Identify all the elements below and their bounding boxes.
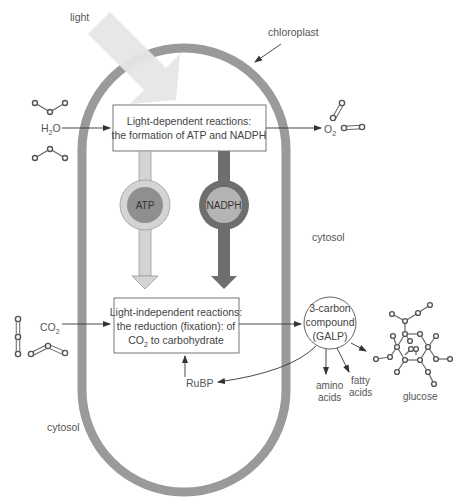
light-independent-description: the reduction (fixation): of: [117, 320, 236, 332]
amino-acids-label: amino: [316, 380, 344, 391]
atp-carrier: ATP: [120, 151, 170, 289]
light-independent-reactions-box: Light-independent reactions: the reducti…: [110, 298, 243, 353]
cytosol-label-left: cytosol: [47, 421, 80, 433]
oxygen-molecule-icon: [330, 100, 344, 120]
co2-molecule-icon: [28, 343, 67, 356]
galp-line2: compound: [305, 316, 354, 328]
galp-line1: 3-carbon: [309, 302, 351, 314]
galp-line3: (GALP): [312, 330, 347, 342]
light-label: light: [70, 11, 89, 23]
oxygen-molecule-icon: [341, 124, 364, 130]
light-independent-title: Light-independent reactions:: [110, 306, 243, 318]
co2-label: CO2: [40, 321, 60, 335]
rubp-label: RuBP: [186, 377, 213, 389]
light-dependent-reactions-box: Light-dependent reactions: the formation…: [112, 105, 267, 151]
to-glucose-arrow: [351, 343, 366, 351]
nadph-label: NADPH: [206, 200, 241, 211]
nadph-carrier: NADPH: [199, 151, 249, 289]
fatty-acids-label-2: acids: [349, 387, 372, 398]
chloroplast-pointer-arrow: [255, 44, 281, 62]
photosynthesis-diagram: light chloroplast H2O Light-dependent re…: [0, 0, 464, 500]
atp-label: ATP: [136, 200, 155, 211]
water-molecule-icon: [33, 101, 68, 115]
water-molecule-icon: [33, 147, 68, 161]
galp-node: 3-carbon compound (GALP): [304, 297, 356, 349]
to-fatty-acids-arrow: [337, 348, 349, 372]
oxygen-label: O2: [324, 123, 336, 137]
co2-molecule-icon: [15, 316, 20, 356]
cytosol-label-right: cytosol: [312, 231, 345, 243]
chloroplast-label: chloroplast: [268, 26, 319, 38]
glucose-label: glucose: [403, 391, 438, 402]
glucose-molecule-icon: [374, 303, 453, 387]
light-dependent-title: Light-dependent reactions:: [127, 115, 251, 127]
amino-acids-label-2: acids: [318, 392, 341, 403]
light-independent-description-2: CO2 to carbohydrate: [128, 334, 224, 348]
water-label: H2O: [41, 122, 61, 136]
fatty-acids-label: fatty: [351, 375, 370, 386]
light-dependent-description: the formation of ATP and NADPH: [112, 129, 267, 141]
